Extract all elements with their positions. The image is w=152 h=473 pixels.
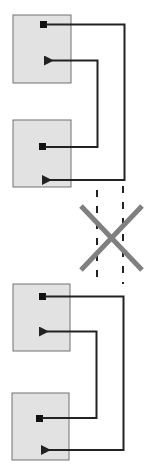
block-3 xyxy=(13,284,70,351)
output-port-icon xyxy=(36,415,43,422)
cross-icon xyxy=(81,206,142,270)
diagram-canvas xyxy=(0,0,152,473)
block-2 xyxy=(13,120,71,187)
output-port-icon xyxy=(40,21,47,28)
output-port-icon xyxy=(39,143,46,150)
output-port-icon xyxy=(39,293,46,300)
